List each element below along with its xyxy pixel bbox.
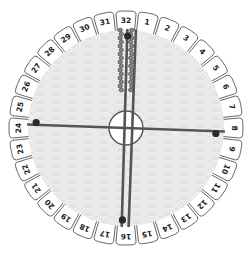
braid-bead — [130, 28, 134, 32]
braid-bead — [119, 80, 123, 84]
braid-bead — [130, 52, 134, 56]
slot-tab-16[interactable]: 16 — [116, 225, 136, 245]
braid-bead — [118, 52, 122, 56]
braid-bead — [119, 40, 123, 44]
braid-bead — [118, 60, 122, 64]
slot-tab-24[interactable]: 24 — [9, 118, 29, 138]
braid-bead — [118, 44, 122, 48]
braid-bead — [118, 76, 122, 80]
braid-bead — [129, 48, 133, 52]
braid-bead — [118, 36, 122, 40]
disc-svg: 1234567891011121314151617181920212223242… — [0, 0, 252, 256]
braid-bead — [129, 40, 133, 44]
dot-slot-16[interactable] — [119, 216, 126, 223]
dot-slot-8[interactable] — [212, 130, 219, 137]
braid-bead — [129, 56, 133, 60]
braid-bead — [119, 64, 123, 68]
braid-bead — [119, 72, 123, 76]
braid-bead — [130, 60, 134, 64]
slot-label: 8 — [230, 125, 239, 130]
dot-slot-32[interactable] — [124, 32, 131, 39]
slot-label: 16 — [121, 232, 131, 241]
braid-bead — [119, 88, 123, 92]
braid-bead — [129, 80, 133, 84]
braid-bead — [119, 48, 123, 52]
braid-bead — [129, 88, 133, 92]
braiding-disc-diagram: 1234567891011121314151617181920212223242… — [0, 0, 252, 256]
dot-slot-24[interactable] — [33, 119, 40, 126]
braid-bead — [119, 56, 123, 60]
braid-bead — [130, 44, 134, 48]
slot-tab-8[interactable]: 8 — [223, 118, 243, 138]
braid-bead — [129, 64, 133, 68]
slot-label: 24 — [14, 123, 23, 133]
braid-bead — [118, 28, 122, 32]
braid-bead — [118, 84, 122, 88]
slot-label: 32 — [121, 16, 131, 25]
braid-bead — [129, 72, 133, 76]
braid-bead — [119, 32, 123, 36]
braid-bead — [118, 68, 122, 72]
